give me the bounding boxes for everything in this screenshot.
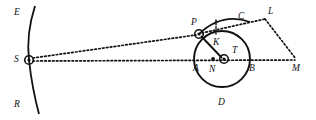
label-D: D [218, 98, 225, 108]
segment-s-p [33, 35, 196, 58]
label-C: C [238, 12, 244, 22]
label-K: K [213, 38, 219, 48]
point-T [220, 55, 229, 64]
label-S: S [14, 55, 19, 65]
label-E: E [14, 8, 20, 18]
label-T: T [232, 46, 237, 56]
segment-l-m [265, 19, 296, 59]
label-N: N [209, 65, 215, 75]
label-P: P [191, 18, 197, 28]
segment-s-m [33, 60, 295, 61]
label-A: A [193, 64, 199, 74]
point-P [195, 30, 204, 39]
label-L: L [268, 7, 273, 17]
label-R: R [14, 100, 20, 110]
label-M: M [292, 64, 300, 74]
diagram-canvas: E S R P C L K T A N B M D [0, 0, 316, 120]
diagram-svg [0, 0, 316, 120]
segment-p-l [202, 19, 265, 33]
point-N [211, 57, 215, 61]
main-circle [194, 31, 250, 87]
label-B: B [249, 64, 255, 74]
